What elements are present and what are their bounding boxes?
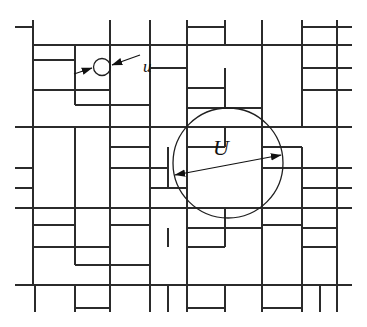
large-scale-label: U	[213, 135, 231, 160]
tiling-diagram: u U	[0, 0, 367, 327]
figure-canvas: u U	[0, 0, 367, 327]
background	[0, 0, 367, 327]
small-scale-label: u	[143, 57, 152, 76]
